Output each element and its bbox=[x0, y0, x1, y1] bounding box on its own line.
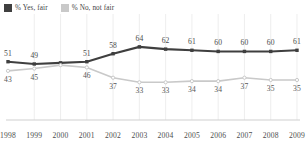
data-point-marker bbox=[164, 47, 167, 50]
data-label: 37 bbox=[241, 82, 249, 91]
data-label: 35 bbox=[293, 84, 301, 93]
data-point-marker bbox=[295, 49, 298, 52]
x-tick-label: 2008 bbox=[263, 131, 279, 140]
series-line-no-not-fair bbox=[8, 65, 297, 82]
legend-item-label: % No, not fair bbox=[72, 4, 115, 12]
data-label: 33 bbox=[135, 86, 143, 95]
series-line-yes-fair bbox=[8, 47, 297, 64]
x-axis-tick-labels: 1998199920002001200220032004200520062007… bbox=[0, 131, 306, 151]
data-label: 43 bbox=[4, 75, 12, 84]
data-point-marker bbox=[138, 81, 141, 84]
data-point-marker bbox=[85, 66, 88, 69]
data-point-marker bbox=[295, 78, 298, 81]
legend-item-yes-fair: % Yes, fair bbox=[4, 4, 48, 12]
x-tick-label: 2005 bbox=[184, 131, 200, 140]
data-point-marker bbox=[269, 50, 272, 53]
data-label: 60 bbox=[267, 38, 275, 47]
legend-swatch-icon bbox=[61, 4, 69, 12]
data-label: 58 bbox=[109, 41, 117, 50]
data-label: 61 bbox=[188, 37, 196, 46]
data-label: 62 bbox=[162, 36, 170, 45]
data-point-marker bbox=[138, 45, 141, 48]
data-label: 33 bbox=[162, 86, 170, 95]
data-point-marker bbox=[59, 64, 62, 67]
plot-area: 5149515864626160606061434546373333343437… bbox=[0, 14, 306, 128]
x-tick-label: 1999 bbox=[26, 131, 42, 140]
x-tick-label: 1998 bbox=[0, 131, 16, 140]
chart-svg bbox=[0, 14, 306, 128]
data-label: 46 bbox=[83, 71, 91, 80]
data-label: 49 bbox=[30, 51, 38, 60]
data-point-marker bbox=[111, 52, 114, 55]
data-point-marker bbox=[243, 50, 246, 53]
data-point-marker bbox=[217, 80, 220, 83]
data-label: 37 bbox=[109, 82, 117, 91]
x-tick-label: 2001 bbox=[79, 131, 95, 140]
data-point-marker bbox=[269, 78, 272, 81]
data-point-marker bbox=[190, 49, 193, 52]
data-label: 45 bbox=[30, 73, 38, 82]
data-label: 51 bbox=[4, 49, 12, 58]
chart-legend: % Yes, fair % No, not fair bbox=[4, 1, 127, 14]
data-point-marker bbox=[6, 60, 9, 63]
x-tick-label: 2007 bbox=[237, 131, 253, 140]
data-point-marker bbox=[164, 81, 167, 84]
legend-swatch-icon bbox=[4, 4, 12, 12]
data-label: 60 bbox=[214, 38, 222, 47]
data-point-marker bbox=[85, 60, 88, 63]
data-point-marker bbox=[33, 67, 36, 70]
data-point-marker bbox=[243, 76, 246, 79]
x-tick-label: 2004 bbox=[158, 131, 174, 140]
x-tick-label: 2009 bbox=[289, 131, 305, 140]
data-point-marker bbox=[33, 62, 36, 65]
data-label: 61 bbox=[293, 37, 301, 46]
data-label: 34 bbox=[214, 85, 222, 94]
data-label: 34 bbox=[188, 85, 196, 94]
x-tick-label: 2006 bbox=[210, 131, 226, 140]
data-point-marker bbox=[190, 80, 193, 83]
data-label: 35 bbox=[267, 84, 275, 93]
legend-item-no-not-fair: % No, not fair bbox=[61, 4, 115, 12]
x-tick-label: 2002 bbox=[105, 131, 121, 140]
data-point-marker bbox=[111, 76, 114, 79]
chart-container: % Yes, fair % No, not fair 5149515864626… bbox=[0, 0, 306, 152]
data-label: 60 bbox=[241, 38, 249, 47]
data-point-marker bbox=[216, 50, 219, 53]
series-layer bbox=[6, 45, 298, 84]
data-label: 51 bbox=[83, 49, 91, 58]
legend-item-label: % Yes, fair bbox=[15, 4, 48, 12]
x-tick-label: 2003 bbox=[131, 131, 147, 140]
data-point-marker bbox=[6, 69, 9, 72]
data-label: 64 bbox=[135, 34, 143, 43]
x-tick-label: 2000 bbox=[53, 131, 69, 140]
